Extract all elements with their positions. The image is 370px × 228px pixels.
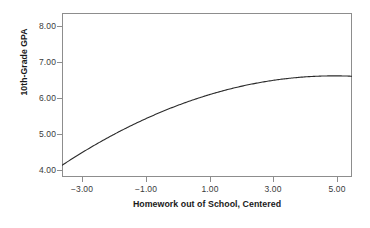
- y-tick-mark-8: [57, 26, 62, 27]
- y-tick-mark-7: [57, 62, 62, 63]
- x-tick-mark-pos5: [337, 177, 338, 182]
- x-tick-label-neg3: −3.00: [52, 184, 112, 194]
- y-axis-title: 10th-Grade GPA: [19, 0, 29, 132]
- y-tick-label-4: 4.00: [10, 166, 56, 175]
- x-tick-mark-pos1: [210, 177, 211, 182]
- y-tick-mark-4: [57, 170, 62, 171]
- x-tick-label-neg1: −1.00: [116, 184, 176, 194]
- x-tick-label-pos1: 1.00: [180, 184, 240, 194]
- y-tick-label-7: 7.00: [10, 58, 56, 67]
- x-tick-label-pos3: 3.00: [243, 184, 303, 194]
- curve-layer: [62, 13, 352, 177]
- y-tick-mark-6: [57, 98, 62, 99]
- chart-figure: 8.00 7.00 6.00 5.00 4.00 10th-Grade GPA …: [0, 0, 370, 228]
- x-tick-mark-neg1: [146, 177, 147, 182]
- fitted-curve: [62, 76, 352, 165]
- y-tick-label-8: 8.00: [10, 22, 56, 31]
- x-tick-mark-neg3: [82, 177, 83, 182]
- x-axis-title: Homework out of School, Centered: [62, 199, 352, 209]
- x-tick-mark-pos3: [273, 177, 274, 182]
- x-tick-label-pos5: 5.00: [307, 184, 367, 194]
- y-tick-mark-5: [57, 134, 62, 135]
- y-tick-label-5: 5.00: [10, 130, 56, 139]
- y-tick-label-6: 6.00: [10, 94, 56, 103]
